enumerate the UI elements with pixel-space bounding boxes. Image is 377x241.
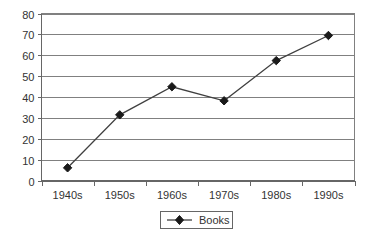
x-axis-tick-label: 1990s — [313, 189, 343, 201]
x-axis-tick-label: 1940s — [53, 189, 83, 201]
chart-legend[interactable]: Books — [161, 212, 233, 229]
x-axis-tick-label: 1960s — [157, 189, 187, 201]
y-axis-tick-label: 70 — [22, 29, 34, 41]
chart-canvas: 01020304050607080 1940s1950s1960s1970s19… — [0, 0, 377, 241]
x-axis-tick-label: 1950s — [105, 189, 135, 201]
y-axis-tick-label: 30 — [22, 113, 34, 125]
y-axis-tick-label: 0 — [28, 176, 34, 188]
line-chart: 01020304050607080 1940s1950s1960s1970s19… — [0, 0, 377, 241]
chart-background — [0, 0, 377, 241]
x-axis-tick-label: 1970s — [209, 189, 239, 201]
legend-label-books: Books — [199, 214, 230, 226]
y-axis-tick-label: 10 — [22, 155, 34, 167]
y-axis-tick-label: 60 — [22, 50, 34, 62]
y-axis-tick-label: 80 — [22, 9, 34, 21]
x-axis-tick-label: 1980s — [261, 189, 291, 201]
y-axis-labels-group: 01020304050607080 — [22, 9, 34, 188]
y-axis-tick-label: 40 — [22, 92, 34, 104]
y-axis-tick-label: 20 — [22, 134, 34, 146]
y-axis-tick-label: 50 — [22, 71, 34, 83]
